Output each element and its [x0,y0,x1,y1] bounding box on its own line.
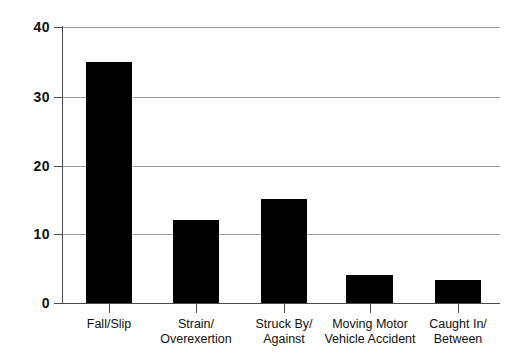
x-axis-line [62,303,500,304]
y-tick-label-0: 0 [4,296,50,310]
x-tick-mark-caught-in-between [458,304,459,313]
y-tick-label-0-wrap: 0 [0,296,50,310]
bar-caught-in-between [435,280,481,303]
x-tick-label-caught-in-between: Caught In/ Between [398,317,518,347]
bar-moving-motor-vehicle-accident [346,275,393,303]
y-tick-mark-10 [54,234,63,235]
bar-fall-slip [86,62,132,303]
bar-struck-by-against [261,199,307,303]
x-tick-mark-fall-slip [109,304,110,313]
bar-strain-overexertion [173,220,219,303]
y-tick-label-20-wrap: 20 [0,159,50,173]
x-tick-mark-struck-by-against [284,304,285,313]
y-tick-label-10: 10 [4,227,50,241]
y-tick-mark-20 [54,166,63,167]
y-tick-label-40: 40 [4,20,50,34]
y-tick-mark-40 [54,27,63,28]
y-axis-line [62,26,63,304]
x-tick-mark-strain-overexertion [196,304,197,313]
y-tick-label-40-wrap: 40 [0,20,50,34]
y-tick-mark-30 [54,97,63,98]
y-tick-label-30: 30 [4,90,50,104]
y-tick-label-30-wrap: 30 [0,90,50,104]
bar-chart: 40 30 20 10 0 Fall/Slip Strain/ Overexer… [0,0,528,353]
x-tick-mark-moving-motor-vehicle-accident [370,304,371,313]
plot-area [62,27,500,303]
y-tick-mark-0 [54,303,63,304]
gridline-40 [62,27,500,28]
y-tick-label-10-wrap: 10 [0,227,50,241]
y-tick-label-20: 20 [4,159,50,173]
